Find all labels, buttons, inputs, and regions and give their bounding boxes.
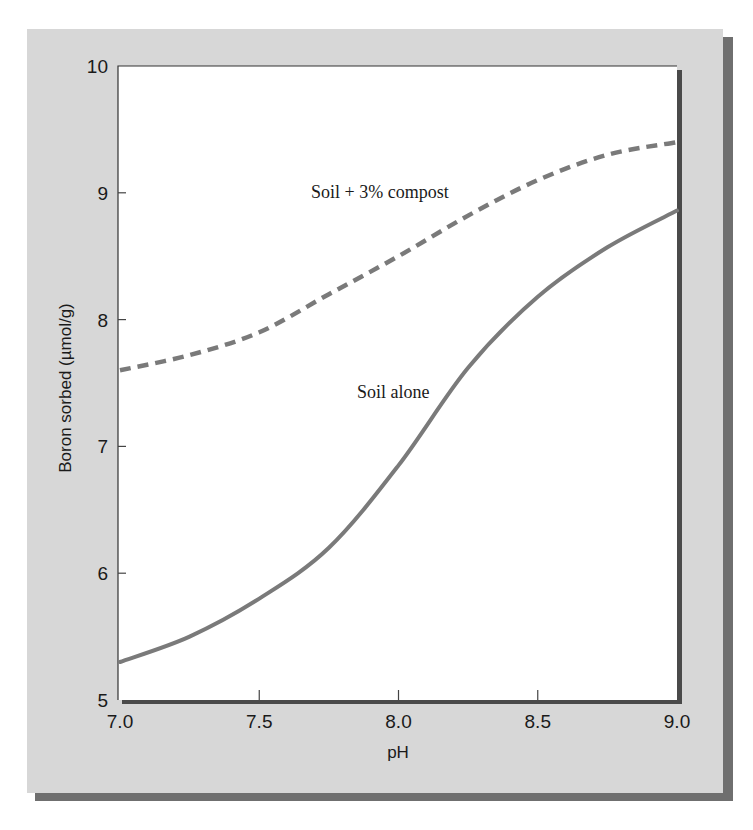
x-tick-label: 9.0 <box>664 711 690 732</box>
y-tick-label: 9 <box>97 183 108 204</box>
x-tick-label: 7.5 <box>246 711 272 732</box>
y-tick-label: 8 <box>97 310 108 331</box>
chart-figure: 5678910 7.07.58.08.59.0 Soil + 3% compos… <box>0 0 753 830</box>
series-label-soil-alone: Soil alone <box>357 382 430 402</box>
x-tick-label: 8.0 <box>385 711 411 732</box>
x-axis-title: pH <box>387 743 409 762</box>
y-tick-label: 6 <box>97 563 108 584</box>
y-axis-title: Boron sorbed (µmol/g) <box>56 303 75 472</box>
x-tick-label: 8.5 <box>525 711 551 732</box>
y-tick-label: 5 <box>97 690 108 711</box>
x-tick-label: 7.0 <box>107 711 133 732</box>
y-tick-label: 7 <box>97 436 108 457</box>
y-tick-label: 10 <box>87 56 108 77</box>
series-label-compost: Soil + 3% compost <box>311 182 449 202</box>
